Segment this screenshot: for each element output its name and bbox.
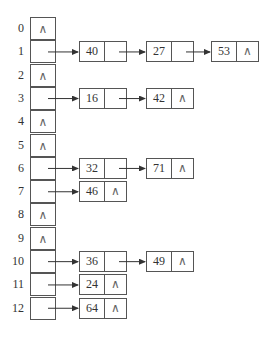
pointer-arrows — [0, 0, 273, 338]
